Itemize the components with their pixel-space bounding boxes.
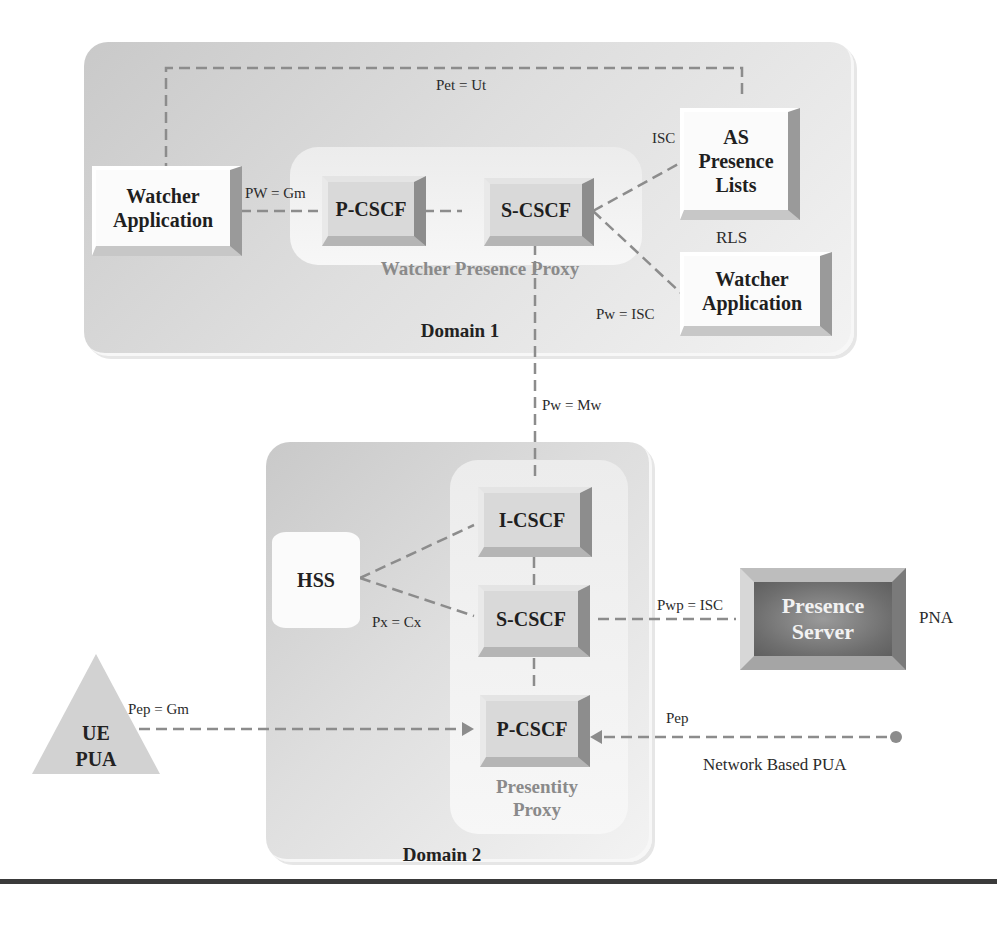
pna-label: PNA: [919, 608, 953, 628]
network-pua-endpoint-icon: [890, 731, 902, 743]
px-cx-label: Px = Cx: [372, 614, 421, 631]
arrow-head-icon: [462, 722, 474, 736]
s-cscf-domain-1[interactable]: S-CSCF: [484, 178, 594, 246]
node-label: Server: [782, 619, 865, 645]
node-label: Watcher: [113, 184, 213, 208]
pw-gm-label: PW = Gm: [245, 185, 306, 202]
ue-pua-label: UE PUA: [58, 720, 134, 772]
arrow-head-icon: [590, 730, 602, 744]
i-cscf-domain-2[interactable]: I-CSCF: [478, 487, 592, 557]
node-label: UE: [58, 720, 134, 746]
pwp-isc-label: Pwp = ISC: [657, 597, 723, 614]
domain-1-label: Domain 1: [390, 320, 530, 342]
px-cx-link: [360, 578, 474, 616]
s-cscf-domain-2[interactable]: S-CSCF: [478, 585, 590, 657]
node-label: S-CSCF: [501, 198, 571, 222]
node-label: Application: [113, 208, 213, 232]
watcher-application-right[interactable]: Watcher Application: [680, 252, 832, 336]
node-label: S-CSCF: [496, 607, 566, 631]
node-label: I-CSCF: [499, 508, 566, 532]
rls-label: RLS: [716, 228, 747, 248]
node-label: PUA: [58, 746, 134, 772]
proxy-label-line: Proxy: [470, 799, 604, 822]
p-cscf-domain-1[interactable]: P-CSCF: [322, 176, 426, 246]
p-cscf-domain-2[interactable]: P-CSCF: [480, 695, 590, 767]
watcher-application-left[interactable]: Watcher Application: [92, 166, 242, 256]
node-label: Watcher: [702, 267, 802, 291]
pep-gm-label: Pep = Gm: [128, 701, 189, 718]
proxy-label-line: Presentity: [470, 776, 604, 799]
pet-ut-label: Pet = Ut: [436, 77, 486, 94]
presentity-proxy-label: Presentity Proxy: [470, 776, 604, 822]
pw-isc-label: Pw = ISC: [596, 306, 654, 323]
bottom-rule: [0, 879, 997, 884]
node-label: P-CSCF: [335, 197, 406, 221]
node-label: Lists: [698, 173, 773, 197]
node-label: HSS: [297, 569, 335, 592]
pw-mw-label: Pw = Mw: [542, 397, 601, 414]
domain-2-label: Domain 2: [372, 844, 512, 866]
isc-label: ISC: [652, 130, 675, 147]
network-based-pua-label: Network Based PUA: [703, 755, 847, 775]
node-label: P-CSCF: [496, 717, 567, 741]
node-label: Application: [702, 291, 802, 315]
isc-as-link: [593, 162, 682, 211]
watcher-presence-proxy-label: Watcher Presence Proxy: [370, 258, 590, 281]
hss-icscf-link: [360, 525, 474, 578]
pep-label: Pep: [666, 710, 689, 727]
node-label: Presence: [782, 593, 865, 619]
presence-server[interactable]: Presence Server: [740, 568, 906, 670]
hss-database[interactable]: HSS: [272, 532, 360, 628]
node-label: Presence: [698, 149, 773, 173]
as-presence-lists[interactable]: AS Presence Lists: [680, 108, 800, 220]
pw-isc-link: [593, 211, 682, 294]
node-label: AS: [698, 125, 773, 149]
